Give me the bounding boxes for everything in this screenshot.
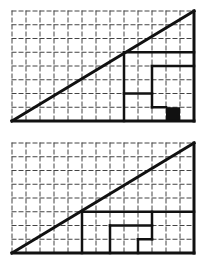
filled-square	[166, 107, 180, 121]
grid-diagram-bottom	[12, 143, 194, 253]
grid-diagram-top	[12, 11, 194, 121]
figure-bottom-triangle-dissection	[12, 143, 194, 253]
figure-top-triangle-dissection	[12, 11, 194, 121]
